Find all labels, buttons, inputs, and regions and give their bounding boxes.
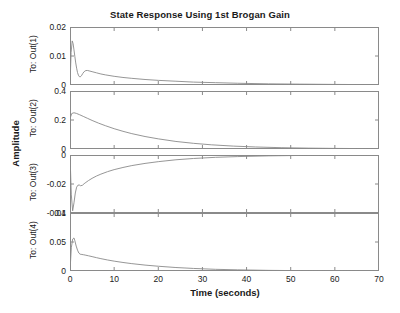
response-curve xyxy=(70,238,379,271)
x-tick-label: 20 xyxy=(154,274,163,284)
x-tick-label: 50 xyxy=(286,274,295,284)
plot-area xyxy=(70,27,379,85)
x-tick-label: 60 xyxy=(330,274,339,284)
x-axis-label: Time (seconds) xyxy=(70,287,380,298)
y-tick-label: 0.02 xyxy=(49,22,66,32)
figure-canvas: State Response Using 1st Brogan Gain Amp… xyxy=(0,0,400,313)
x-tick-label: 30 xyxy=(198,274,207,284)
subplot-out2: 00.20.4To: Out(2) xyxy=(70,91,379,149)
x-tick-label: 10 xyxy=(109,274,118,284)
plot-area xyxy=(70,91,379,149)
y-tick-label: -0.02 xyxy=(47,179,66,189)
response-curve xyxy=(70,155,379,211)
x-tick-label: 70 xyxy=(374,274,383,284)
y-tick-label: 0 xyxy=(61,266,66,276)
x-tick-label: 0 xyxy=(68,274,73,284)
plot-area xyxy=(70,155,379,213)
chart-title: State Response Using 1st Brogan Gain xyxy=(0,9,400,20)
y-tick-label: 0.05 xyxy=(49,237,66,247)
x-tick-label: 40 xyxy=(242,274,251,284)
y-axis-label: Amplitude xyxy=(10,84,21,204)
y-tick-label: 0.1 xyxy=(54,208,66,218)
subplot-out3: -0.04-0.020To: Out(3) xyxy=(70,155,379,213)
plot-area xyxy=(70,213,379,271)
y-tick-label: 0 xyxy=(61,150,66,160)
subplot-output-label: To: Out(4) xyxy=(28,200,38,280)
subplot-out1: 00.010.02To: Out(1) xyxy=(70,27,379,85)
y-tick-label: 0.4 xyxy=(54,86,66,96)
subplot-out4: 00.050.1To: Out(4) xyxy=(70,213,379,271)
response-curve xyxy=(70,41,379,85)
y-tick-label: 0.01 xyxy=(49,51,66,61)
response-curve xyxy=(70,113,379,149)
y-tick-label: 0.2 xyxy=(54,115,66,125)
